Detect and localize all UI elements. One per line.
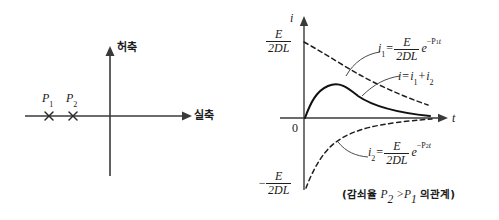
leader-line-i2 [338,142,368,157]
equation-i1-exp-base: e [419,41,426,55]
imaginary-axis [106,46,115,176]
y-tick-top-fraction: E 2DL [266,28,291,54]
equation-i1-denominator: 2DL [394,50,419,63]
curve-i-sum [305,84,430,118]
equation-i2-exponent: −P2t [417,141,431,150]
y-tick-top: E 2DL [266,28,291,54]
caption-p2: P [380,188,387,200]
y-tick-bottom-denominator: 2DL [266,184,291,197]
equation-i1-exponent-p: −P [427,37,436,46]
imaginary-axis-label: 허축 [117,42,137,53]
equation-i2-exponent-p: −P [417,141,426,150]
equation-i-sum-equals: = [401,69,410,83]
equation-i2-exp-base: e [409,145,416,159]
y-tick-bottom: − E 2DL [258,170,291,196]
equation-i-sum-plus: + [417,69,426,83]
caption-p2-sub: 2 [388,193,394,205]
complex-plane-panel: P1 P2 허축 실축 [0,0,250,220]
equation-i1-lhs-sub: 1 [381,50,385,59]
caption-open: (감쇠율 [342,188,380,200]
caption-p1-sub: 1 [411,193,417,205]
equation-i1-equals: = [385,41,394,55]
origin-label: 0 [292,122,298,134]
real-axis-label: 실축 [194,110,214,121]
pole-label-p1: P1 [42,92,53,107]
equation-i2-exponent-var: t [429,141,431,150]
equation-i2-fraction: E 2DL [384,140,409,166]
equation-i1-exponent-var: t [439,37,441,46]
y-tick-bottom-sign: − [258,176,266,190]
equation-i2-denominator: 2DL [384,154,409,167]
equation-i1-exponent: −P1t [427,37,441,46]
equation-i2-lhs-sub: 2 [371,154,375,163]
y-tick-top-numerator: E [266,28,291,42]
y-tick-top-denominator: 2DL [266,42,291,55]
equation-i-sum: i=i1+i2 [398,69,434,85]
leader-line-i1 [346,52,380,76]
figure-root: P1 P2 허축 실축 [0,0,499,220]
current-response-panel: i t 0 E 2DL − E 2DL i1= E 2DL e−P1t [250,0,499,220]
equation-i1: i1= E 2DL e−P1t [378,36,441,62]
pole-label-p1-sub: 1 [49,100,53,109]
pole-label-p2: P2 [66,92,77,107]
equation-i2-equals: = [375,145,384,159]
equation-i2-numerator: E [384,140,409,154]
equation-i2: i2= E 2DL e−P2t [368,140,431,166]
caption-close: 의관계) [417,188,455,200]
y-tick-bottom-fraction: E 2DL [266,170,291,196]
equation-i-sum-term1-sub: 1 [413,78,417,87]
equation-i1-fraction: E 2DL [394,36,419,62]
caption-gt: > [393,188,404,200]
caption-p1: P [404,188,411,200]
x-axis-label: t [452,112,455,124]
pole-label-p2-sub: 2 [73,100,77,109]
equation-i-sum-term2-sub: 2 [430,78,434,87]
y-tick-bottom-numerator: E [266,170,291,184]
equation-i1-numerator: E [394,36,419,50]
y-axis-label: i [290,12,293,24]
figure-caption: (감쇠율 P2 >P1 의관계) [342,186,455,203]
